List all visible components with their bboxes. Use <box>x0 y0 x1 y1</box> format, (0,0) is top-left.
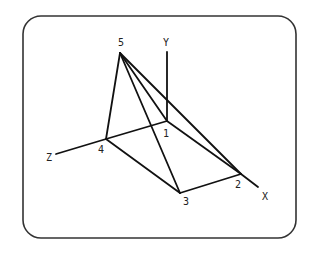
coordinate-axes <box>56 52 258 187</box>
edge-5-1 <box>120 53 167 121</box>
vertex-label-2: 2 <box>235 179 241 190</box>
vertex-label-5: 5 <box>118 37 124 48</box>
pyramid-edges <box>106 53 241 193</box>
axis-label-z: Z <box>46 152 52 163</box>
axis-label-x: X <box>262 191 268 202</box>
edge-3-2 <box>180 174 241 193</box>
edge-1-2 <box>167 121 241 174</box>
pyramid-diagram: YZX12345 <box>0 0 314 253</box>
axis-label-y: Y <box>163 37 169 48</box>
vertex-label-3: 3 <box>183 196 189 207</box>
edge-5-2 <box>120 53 241 174</box>
vertex-label-4: 4 <box>98 144 104 155</box>
diagram-frame <box>23 16 296 238</box>
edge-5-4 <box>106 53 120 139</box>
vertex-labels: YZX12345 <box>46 37 268 207</box>
vertex-label-1: 1 <box>163 128 169 139</box>
axis-x <box>241 174 258 187</box>
edge-1-4 <box>106 121 167 139</box>
